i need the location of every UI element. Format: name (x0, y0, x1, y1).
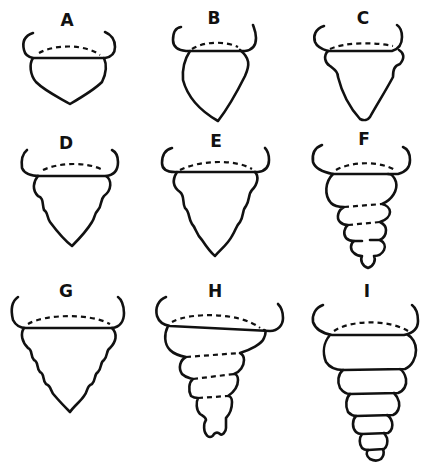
drawings (0, 0, 440, 466)
panel-label-a: A (60, 12, 73, 29)
panel-a-drawing (23, 32, 115, 104)
panel-c-drawing (314, 25, 403, 120)
panel-label-c: C (357, 10, 369, 27)
panel-b-drawing (173, 25, 256, 121)
panel-f-drawing (313, 145, 410, 268)
panel-label-b: B (208, 10, 221, 27)
panel-d-drawing (22, 150, 118, 246)
figure-canvas: A B C D E F G H I (0, 0, 440, 466)
panel-label-d: D (59, 135, 73, 152)
panel-label-f: F (358, 131, 370, 148)
panel-label-g: G (59, 283, 73, 300)
panel-label-e: E (210, 133, 222, 150)
panel-label-h: H (208, 283, 222, 300)
panel-label-i: I (364, 283, 370, 300)
panel-h-drawing (156, 297, 283, 437)
panel-i-drawing (313, 305, 418, 461)
panel-g-drawing (12, 297, 124, 412)
panel-e-drawing (162, 148, 269, 256)
